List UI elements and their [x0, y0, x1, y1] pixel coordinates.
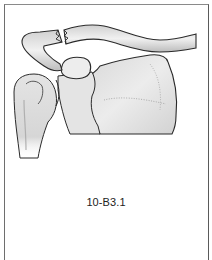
clavicle-lateral-fragment — [22, 30, 62, 71]
clavicle-medial-fragment — [64, 25, 196, 52]
figure-label: 10-B3.1 — [0, 196, 212, 208]
coracoid-process — [61, 57, 90, 78]
scapula-body — [84, 55, 177, 134]
humerus — [14, 74, 57, 158]
shoulder-illustration — [0, 0, 212, 170]
